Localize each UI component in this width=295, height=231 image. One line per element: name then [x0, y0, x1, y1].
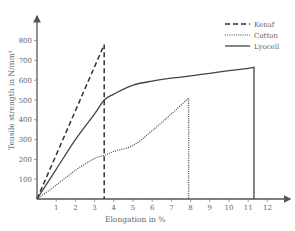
series-lines — [37, 45, 254, 199]
x-tick-label: 6 — [150, 204, 155, 212]
x-tick-label: 9 — [208, 204, 212, 212]
y-tick-label: 400 — [19, 116, 32, 124]
x-tick-label: 8 — [188, 204, 192, 212]
y-tick-label: 800 — [19, 37, 32, 45]
x-tick-label: 1 — [54, 204, 58, 212]
y-axis-label: Tensile strength in N/mm² — [7, 50, 16, 150]
x-tick-label: 4 — [112, 204, 117, 212]
y-tick-label: 200 — [19, 156, 32, 164]
legend-label-lyocell: Lyocell — [254, 43, 280, 51]
y-tick-label: 100 — [19, 176, 32, 184]
series-cotton — [37, 98, 189, 199]
x-ticks: 123456789101112 — [54, 199, 272, 212]
y-tick-label: 600 — [19, 77, 32, 85]
axes: 123456789101112 100200300400500600700800… — [7, 16, 290, 224]
x-tick-label: 10 — [225, 204, 234, 212]
legend-label-cotton: Cotton — [254, 32, 278, 40]
x-tick-label: 5 — [131, 204, 135, 212]
x-tick-label: 12 — [263, 204, 272, 212]
x-tick-label: 7 — [169, 204, 173, 212]
series-kenaf — [37, 45, 104, 199]
legend-label-kenaf: Kenaf — [254, 21, 276, 29]
y-ticks: 100200300400500600700800 — [19, 37, 37, 184]
x-axis-label: Elongation in % — [105, 215, 165, 224]
y-tick-label: 500 — [19, 97, 32, 105]
legend: Kenaf Cotton Lyocell — [225, 21, 280, 51]
y-tick-label: 700 — [19, 57, 32, 65]
y-tick-label: 300 — [19, 136, 32, 144]
series-lyocell — [37, 67, 254, 199]
x-tick-label: 11 — [244, 204, 253, 212]
x-tick-label: 3 — [92, 204, 96, 212]
tensile-elongation-chart: 123456789101112 100200300400500600700800… — [0, 0, 295, 231]
x-tick-label: 2 — [73, 204, 77, 212]
